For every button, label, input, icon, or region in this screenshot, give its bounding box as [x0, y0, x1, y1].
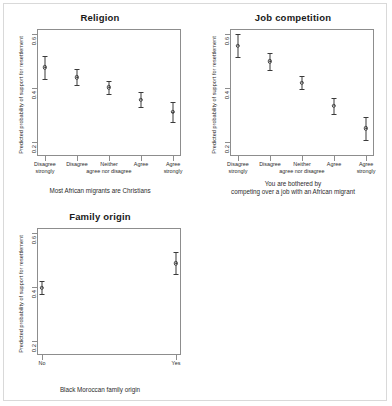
panel-religion: Religion Predicted probability of suppor…	[4, 4, 196, 202]
y-tick-0-2	[32, 341, 37, 342]
error-bar-cap-lower	[139, 107, 144, 108]
y-tick-0-4	[32, 287, 37, 288]
x-tick-label-line1: Agree	[359, 161, 373, 167]
data-point-center	[44, 67, 46, 69]
panel-job-competition: Job competition Predicted probability of…	[197, 4, 389, 202]
error-bar-cap-upper	[74, 69, 79, 70]
error-bar-cap-upper	[42, 56, 47, 57]
data-point-center	[140, 99, 142, 101]
data-point-center	[175, 263, 177, 265]
error-bar-cap-lower	[332, 114, 337, 115]
y-tick-label-0-6: 0.6	[224, 37, 230, 45]
x-axis-tick-labels-family-origin: NoYes	[37, 360, 181, 386]
panel-title-religion: Religion	[4, 12, 196, 23]
plot-area-job-competition: 0.20.40.6	[230, 29, 374, 156]
error-bar-cap-lower	[267, 70, 272, 71]
y-tick-label-0-4: 0.4	[31, 91, 37, 99]
x-tick-label-line1: Agree	[166, 161, 180, 167]
error-bar-cap-upper	[235, 34, 240, 35]
x-tick-label-1: Yes	[153, 360, 199, 367]
error-bar-cap-lower	[364, 140, 369, 141]
error-bar-cap-lower	[300, 89, 305, 90]
y-tick-0-4	[225, 88, 230, 89]
x-tick-label-line2: strongly	[331, 168, 392, 175]
x-tick-label-line2: agree nor disagree	[74, 168, 144, 175]
data-point-center	[237, 45, 239, 47]
panel-family-origin: Family origin Predicted probability of s…	[4, 203, 196, 401]
data-point-center	[172, 111, 174, 113]
y-axis-label-job-competition: Predicted probability of support for res…	[211, 25, 217, 165]
y-tick-0-6	[32, 233, 37, 234]
y-tick-0-6	[225, 34, 230, 35]
x-tick-label-4: Agreestrongly	[343, 161, 389, 174]
error-bar-cap-upper	[300, 76, 305, 77]
data-point-center	[108, 87, 110, 89]
plot-frame-job-competition	[230, 29, 374, 156]
x-tick-label-line1: Disagree	[259, 161, 281, 167]
data-point-center	[365, 128, 367, 130]
data-point-center	[301, 82, 303, 84]
y-tick-label-0-4: 0.4	[31, 290, 37, 298]
error-bar-cap-lower	[42, 79, 47, 80]
error-bar-cap-upper	[364, 117, 369, 118]
x-tick-label-0: No	[19, 360, 65, 367]
x-tick-label-line1: Agree	[134, 161, 148, 167]
x-axis-caption-religion: Most African migrants are Christians	[4, 187, 196, 195]
panel-title-family-origin: Family origin	[4, 211, 196, 222]
error-bar-cap-lower	[235, 57, 240, 58]
error-bar-cap-upper	[267, 53, 272, 54]
x-axis-caption-line1-family-origin: Black Moroccan family origin	[60, 386, 140, 393]
x-tick-label-line2: agree nor disagree	[267, 168, 337, 175]
y-axis-label-religion: Predicted probability of support for res…	[18, 25, 24, 165]
x-axis-caption-line1-job-competition: You are bothered by	[265, 180, 321, 187]
x-tick-label-line1: Yes	[172, 360, 181, 366]
y-tick-label-0-2: 0.2	[31, 344, 37, 352]
y-tick-0-2	[32, 142, 37, 143]
y-tick-0-2	[225, 142, 230, 143]
plot-area-family-origin: 0.20.40.6	[37, 228, 181, 355]
error-bar-cap-lower	[74, 85, 79, 86]
y-tick-label-0-6: 0.6	[31, 236, 37, 244]
error-bar-cap-upper	[332, 98, 337, 99]
data-point-center	[41, 287, 43, 289]
x-tick-label-line1: Disagree	[34, 161, 56, 167]
y-tick-label-0-4: 0.4	[224, 91, 230, 99]
error-bar-cap-lower	[107, 94, 112, 95]
error-bar-cap-lower	[40, 294, 45, 295]
error-bar-cap-lower	[173, 274, 178, 275]
y-tick-0-6	[32, 34, 37, 35]
x-tick-label-4: Agreestrongly	[150, 161, 196, 174]
data-point-center	[333, 105, 335, 107]
panel-title-job-competition: Job competition	[197, 12, 389, 23]
x-tick-label-line1: Neither	[100, 161, 117, 167]
x-tick-label-line1: Neither	[293, 161, 310, 167]
error-bar-cap-upper	[139, 92, 144, 93]
x-axis-caption-job-competition: You are bothered by competing over a job…	[197, 180, 389, 197]
plot-frame-family-origin	[37, 228, 181, 355]
plot-area-religion: 0.20.40.6	[37, 29, 181, 156]
data-point-center	[76, 77, 78, 79]
x-tick-label-line1: No	[39, 360, 46, 366]
error-bar-cap-upper	[173, 252, 178, 253]
error-bar-cap-upper	[40, 281, 45, 282]
x-axis-caption-line2-job-competition: competing over a job with an African mig…	[231, 188, 355, 195]
figure-panel-container: Religion Predicted probability of suppor…	[3, 3, 387, 401]
x-tick-label-line1: Disagree	[66, 161, 88, 167]
error-bar-cap-upper	[171, 102, 176, 103]
data-point-center	[269, 61, 271, 63]
x-tick-label-line2: strongly	[10, 168, 80, 175]
y-tick-label-0-2: 0.2	[31, 145, 37, 153]
x-tick-label-line1: Agree	[327, 161, 341, 167]
error-bar-cap-lower	[171, 122, 176, 123]
x-axis-caption-family-origin: Black Moroccan family origin	[4, 386, 196, 394]
x-tick-label-line2: strongly	[203, 168, 273, 175]
x-tick-label-line1: Disagree	[227, 161, 249, 167]
x-axis-caption-line1-religion: Most African migrants are Christians	[49, 187, 150, 194]
y-tick-label-0-6: 0.6	[31, 37, 37, 45]
y-tick-0-4	[32, 88, 37, 89]
y-axis-label-family-origin: Predicted probability of support for res…	[18, 224, 24, 364]
y-tick-label-0-2: 0.2	[224, 145, 230, 153]
error-bar-cap-upper	[107, 81, 112, 82]
x-axis-tick-labels-religion: DisagreestronglyDisagreeNeitheragree nor…	[37, 161, 181, 187]
